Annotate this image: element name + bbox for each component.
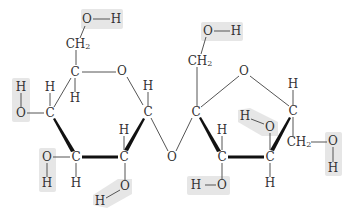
atom-o-c3: O [42,150,52,164]
atom-c4-fructose: C [265,150,274,164]
atom-c1-glucose: C [143,105,152,119]
atom-glycosidic-oxygen: O [167,150,177,164]
atom-c2-glucose: C [119,150,128,164]
atom-ch2-c1-fructose: CH2 [287,135,312,149]
atom-ch2-fructose: CH2 [188,54,213,68]
atom-h-o-c2: H [95,194,105,208]
atom-h-c4: H [45,80,55,94]
atom-h-c3-fructose: H [217,123,227,137]
atom-h-c6: H [111,12,121,26]
atom-h-o-c4: H [16,80,26,94]
atom-o-c3-fructose: O [217,178,227,192]
atom-h-c1: H [143,79,153,93]
atom-o-c4-fructose: O [265,120,275,134]
atom-c4-glucose: C [45,106,54,120]
atom-o-ring-fructose: O [239,64,249,78]
atom-ch2-glucose: CH2 [66,37,91,51]
atom-h-c5: H [70,91,80,105]
atom-o-c6: O [82,12,92,26]
atom-c2-fructose: C [191,105,200,119]
atom-o-c4: O [16,106,26,120]
atom-o-ring-glucose: O [117,64,127,78]
atom-h-c5-fructose: H [288,77,298,91]
atom-h-o-c4-fructose: H [240,109,250,123]
fructose-ring: O H CH2 O C C H C H O H C H O H CH2 O H [188,24,339,192]
atom-h-o-c3-fructose: H [191,178,201,192]
atom-o-c6-fructose: O [203,24,213,38]
atom-c3-glucose: C [71,150,80,164]
atom-c5-fructose: C [288,104,297,118]
atom-c3-fructose: C [217,150,226,164]
atom-o-c2: O [120,179,130,193]
atom-h-o-c3: H [42,176,52,190]
atom-c5-glucose: C [70,65,79,79]
atom-h-o-c1-fructose: H [328,161,338,175]
atom-h-c3: H [71,176,81,190]
atom-h-c4-fructose: H [265,176,275,190]
sucrose-structure-diagram: O H CH2 C O H C H O H C H C O H H C H O … [0,0,350,215]
atom-h-c2: H [119,123,129,137]
atom-o-c1-fructose: O [328,134,338,148]
atom-h-c6-fructose: H [231,24,241,38]
glucose-ring: O H CH2 C O H C H O H C H C O H H C H O … [16,12,153,208]
